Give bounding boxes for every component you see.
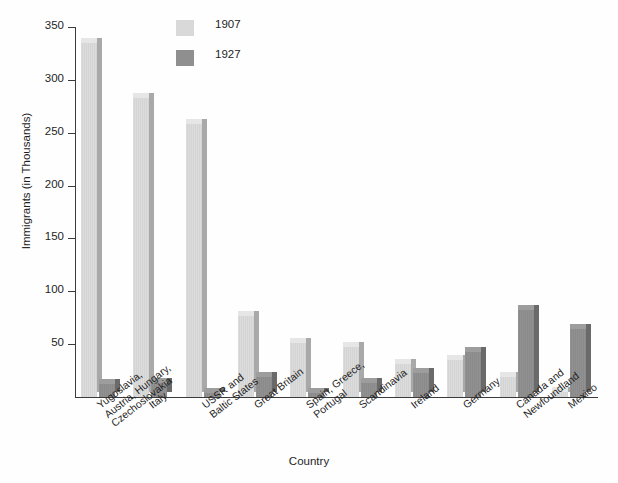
bar-top-face [256, 372, 272, 377]
legend-label-1907: 1907 [215, 18, 241, 30]
bar-top-face [133, 93, 149, 98]
bar-top-face [465, 347, 481, 352]
bars-layer [75, 27, 598, 397]
bar-1907-9 [500, 377, 516, 397]
bar-chart: 50100150200250300350 Yugoslavia,Austria,… [0, 0, 618, 483]
bar-side-shadow [149, 93, 154, 392]
bar-top-face [447, 355, 463, 360]
bar-side-shadow [306, 338, 311, 392]
bar-1907-1 [81, 43, 97, 397]
y-tick-label: 100 [0, 283, 74, 295]
bar-side-shadow [97, 38, 102, 392]
bar-top-face [395, 359, 411, 364]
bar-1907-8 [447, 360, 463, 397]
legend-swatch-icon-1907 [176, 20, 194, 36]
y-tick-label: 250 [0, 125, 74, 137]
bar-top-face [413, 368, 429, 373]
y-tick-label: 50 [0, 336, 74, 348]
bar-1907-3 [186, 124, 202, 397]
bar-side-shadow [202, 119, 207, 392]
y-tick-label: 200 [0, 178, 74, 190]
bar-face [500, 377, 516, 397]
bar-top-face [81, 38, 97, 43]
bar-1927-9 [518, 310, 534, 397]
bar-side-shadow [534, 305, 539, 392]
bar-top-face [570, 324, 586, 329]
y-tick-label: 150 [0, 230, 74, 242]
legend-swatch-icon-1927 [176, 50, 194, 66]
bar-top-face [186, 119, 202, 124]
bar-face [518, 310, 534, 397]
bar-face [447, 360, 463, 397]
legend-label-1927: 1927 [215, 48, 241, 60]
bar-top-face [99, 379, 115, 384]
y-axis-title: Immigrants (in Thousands) [20, 71, 32, 291]
chart-legend: 1907 1927 [176, 18, 296, 78]
x-axis-title: Country [0, 455, 618, 467]
legend-item-1907: 1907 [176, 18, 296, 48]
bar-face [186, 124, 202, 397]
y-tick-label: 350 [0, 19, 74, 31]
bar-face [133, 98, 149, 397]
y-tick-label: 300 [0, 72, 74, 84]
legend-item-1927: 1927 [176, 48, 296, 78]
bar-top-face [290, 338, 306, 343]
bar-face [81, 43, 97, 397]
bar-top-face [238, 311, 254, 316]
bar-top-face [518, 305, 534, 310]
bar-top-face [343, 342, 359, 347]
bar-1907-2 [133, 98, 149, 397]
bar-top-face [500, 372, 516, 377]
